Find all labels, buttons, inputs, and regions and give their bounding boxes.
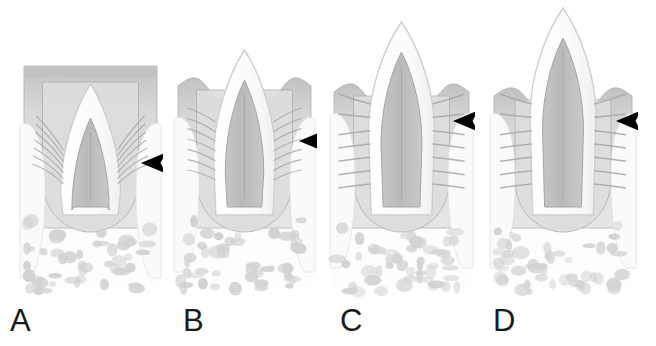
panel-c — [328, 0, 475, 346]
trabecula — [341, 288, 357, 295]
trabecula — [607, 284, 621, 294]
trabecula — [48, 273, 62, 278]
trabecula — [107, 243, 118, 257]
erupting-tooth — [214, 50, 276, 215]
trabecula — [582, 243, 595, 248]
trabecula — [23, 261, 31, 271]
erupting-tooth — [369, 22, 435, 215]
trabecula — [183, 233, 195, 246]
trabecula — [214, 232, 224, 240]
trabecula — [197, 242, 207, 250]
trabecula — [441, 281, 451, 292]
trabecula — [124, 253, 132, 260]
trabecula — [493, 258, 505, 268]
trabecula — [282, 262, 292, 270]
trabecula — [494, 228, 502, 236]
trabecula — [23, 242, 31, 254]
trabecula — [454, 281, 461, 294]
trabecula — [39, 248, 47, 255]
trabecula — [593, 272, 603, 285]
trabecula — [128, 282, 142, 288]
trabecula — [294, 243, 307, 253]
trabecula — [139, 241, 156, 248]
trabecula — [579, 282, 591, 295]
trabecula — [198, 278, 208, 290]
trabecula — [183, 268, 192, 279]
tooth-eruption-figure: ABCD — [0, 0, 656, 346]
trabecula — [493, 271, 507, 284]
trabecula — [614, 221, 623, 231]
trabecula — [528, 259, 539, 270]
trabecula — [245, 271, 259, 282]
trabecula — [423, 245, 439, 254]
trabecula — [553, 250, 565, 257]
trabecula — [581, 270, 593, 282]
trabecula — [104, 261, 112, 267]
trabecula — [210, 283, 220, 290]
trabecula — [285, 283, 293, 289]
trabecula — [416, 270, 423, 283]
trabecula — [195, 268, 209, 275]
trabecula — [25, 283, 34, 294]
trabecula — [76, 249, 83, 259]
trabecula — [114, 267, 132, 275]
trabecula — [417, 260, 423, 272]
trabecula — [92, 240, 102, 247]
trabecula — [382, 249, 400, 256]
trabecula — [284, 272, 293, 280]
trabecula — [49, 229, 66, 240]
trabecula — [33, 287, 44, 296]
trabecula — [79, 267, 88, 275]
trabecula — [400, 232, 417, 240]
oral-epithelium — [24, 66, 157, 79]
trabecula — [190, 215, 198, 227]
trabecula — [295, 217, 306, 223]
trabecula — [386, 262, 394, 269]
trabecula — [336, 222, 348, 234]
trabecula — [442, 265, 459, 270]
trabecula — [200, 228, 215, 239]
trabecula — [492, 248, 506, 256]
erupting-tooth — [530, 8, 596, 215]
trabecula — [142, 222, 157, 236]
trabecula — [50, 249, 64, 257]
trabecula — [96, 229, 106, 238]
panel-label-c: C — [340, 305, 362, 336]
trabecula — [607, 243, 618, 254]
trabecula — [512, 246, 530, 259]
trabecula — [341, 260, 350, 269]
trabecula — [49, 281, 56, 286]
trabecula — [512, 234, 522, 242]
trabecula — [212, 270, 221, 276]
trabecula — [596, 241, 606, 254]
trabecula — [184, 258, 190, 267]
trabecula — [506, 239, 513, 252]
trabecula — [355, 232, 365, 245]
trabecula — [118, 234, 135, 247]
trabecula — [535, 274, 548, 282]
trabecula — [546, 251, 555, 264]
trabecula — [229, 282, 242, 296]
panel-label-b: B — [183, 305, 204, 336]
trabecula — [443, 275, 460, 281]
panel-label-d: D — [493, 305, 515, 336]
trabecula — [74, 278, 80, 288]
trabecula — [446, 228, 464, 236]
trabecula — [565, 257, 573, 263]
trabecula — [100, 279, 109, 290]
oral-epithelium-band — [24, 66, 157, 79]
panel-b — [172, 0, 317, 346]
panel-d — [488, 0, 638, 346]
trabecula — [355, 252, 362, 261]
trabecula — [608, 234, 620, 240]
trabecula — [209, 245, 226, 258]
trabecula — [428, 283, 439, 291]
trabecula — [376, 265, 382, 277]
trabecula — [396, 260, 408, 272]
panel-a — [18, 0, 163, 346]
trabecula — [443, 236, 452, 247]
trabecula — [406, 245, 417, 252]
trabecula — [514, 284, 530, 296]
trabecula — [549, 279, 556, 289]
trabecula — [35, 278, 41, 287]
